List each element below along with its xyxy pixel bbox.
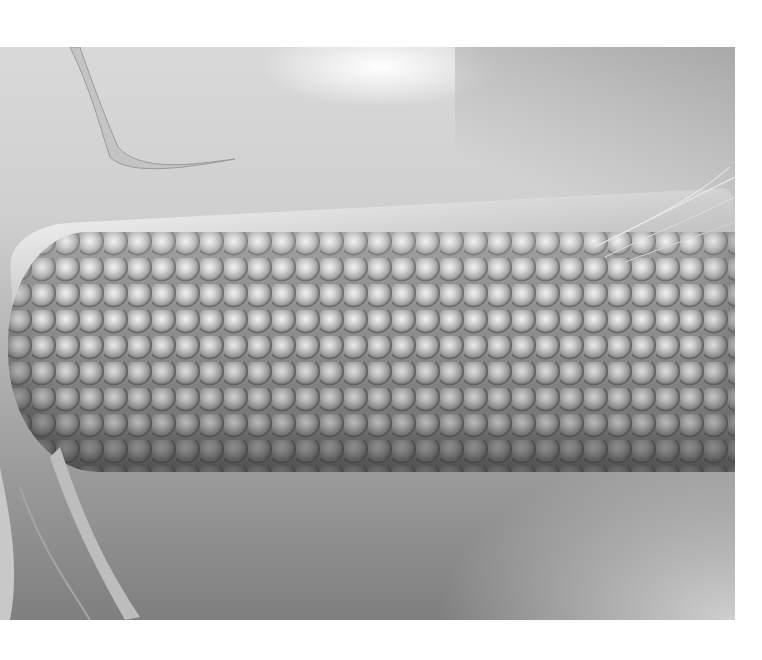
lower-husk-leaves (0, 427, 200, 620)
loose-husk-leaf (70, 47, 240, 197)
corn-photo (0, 47, 735, 620)
corn-silk (595, 167, 735, 267)
